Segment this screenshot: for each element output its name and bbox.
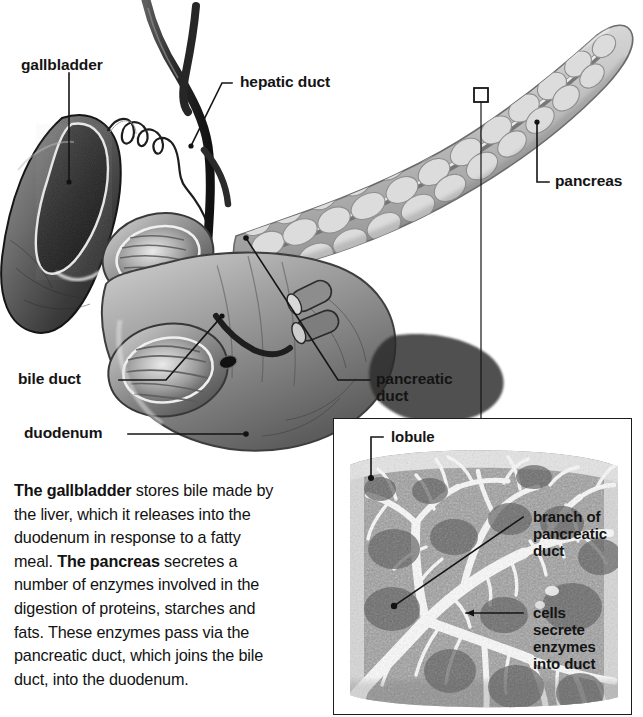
caption-paragraph: The gallbladder stores bile made by the …: [14, 479, 276, 691]
figure-page: gallbladder hepatic duct pancreas bile d…: [0, 0, 643, 717]
label-cells-line1: cells: [533, 604, 566, 621]
label-pancreatic-duct-line2: duct: [376, 387, 408, 405]
label-cells-line2: secrete: [533, 621, 585, 638]
caption-bold-pancreas: The pancreas: [57, 552, 160, 570]
label-branch-line1: branch of: [533, 508, 600, 525]
label-hepatic-duct: hepatic duct: [240, 73, 330, 91]
caption-bold-gallbladder: The gallbladder: [14, 481, 131, 499]
label-branch-line2: pancreatic: [533, 525, 607, 542]
cystic-duct: [108, 119, 208, 226]
label-cells-line3: enzymes: [533, 638, 596, 655]
label-cells-line4: into duct: [533, 655, 595, 672]
label-gallbladder: gallbladder: [21, 56, 103, 74]
label-lobule: lobule: [391, 428, 435, 445]
caption-text-2: secretes a number of enzymes involved in…: [14, 552, 263, 688]
label-pancreas: pancreas: [555, 172, 622, 190]
label-bile-duct: bile duct: [18, 370, 81, 388]
label-pancreatic-duct-line1: pancreatic: [376, 370, 453, 388]
pancreas-organ: [234, 25, 633, 285]
label-branch-line3: duct: [533, 542, 564, 559]
label-duodenum: duodenum: [24, 424, 102, 442]
